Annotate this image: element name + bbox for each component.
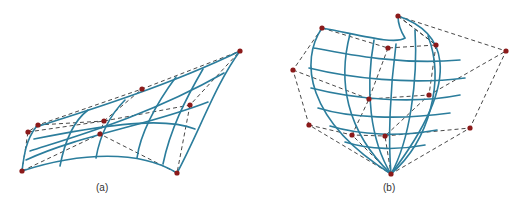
figure-canvas — [0, 0, 525, 210]
panel-a-label: (a) — [96, 182, 108, 193]
panel-a — [19, 48, 242, 175]
panel-b-label: (b) — [383, 182, 395, 193]
panel-b — [290, 13, 508, 176]
control-points-b — [290, 13, 508, 176]
surface-a — [22, 51, 240, 173]
control-net-a — [22, 51, 240, 173]
surface-b — [309, 16, 465, 174]
control-points-a — [19, 48, 242, 175]
